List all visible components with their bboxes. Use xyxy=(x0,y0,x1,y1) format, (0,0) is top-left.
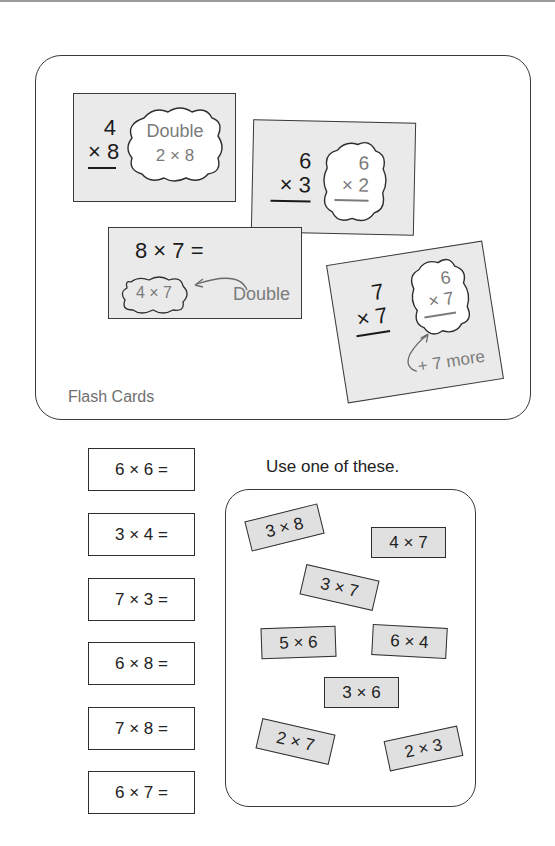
exercise-3: 7 × 3 = xyxy=(88,578,195,621)
hint-bottom: × 2 xyxy=(335,174,369,197)
hint-bottom: × 7 xyxy=(420,288,455,314)
top-factor: 4 xyxy=(88,116,116,140)
underline xyxy=(270,200,310,202)
underline xyxy=(88,167,116,169)
choice-chip: 5 × 6 xyxy=(260,626,336,660)
flash-card-6x3: 6 × 3 6 × 2 xyxy=(251,119,416,235)
flash-cards-label: Flash Cards xyxy=(68,388,154,406)
hint-expr: 2 × 8 xyxy=(124,146,226,166)
exercise-5: 7 × 8 = xyxy=(88,707,195,750)
flash-card-4x8: 4 × 8 Double 2 × 8 xyxy=(73,93,236,202)
bottom-factor: × 8 xyxy=(88,140,116,164)
bottom-factor: × 3 xyxy=(271,173,311,198)
hint-word: Double xyxy=(124,121,226,142)
exercise-2: 3 × 4 = xyxy=(88,513,195,556)
vertical-problem: 4 × 8 xyxy=(88,116,116,169)
exercise-4: 6 × 8 = xyxy=(88,642,195,685)
choice-chip: 4 × 7 xyxy=(371,527,446,558)
hint-top: 6 xyxy=(335,152,369,175)
exercise-6: 6 × 7 = xyxy=(88,771,195,814)
flash-card-7x7: 7 × 7 6 × 7 + 7 more xyxy=(326,241,504,404)
cloud-shape-icon xyxy=(124,104,226,184)
hint-cloud: 6 × 7 xyxy=(403,252,477,341)
hint-note: Double xyxy=(233,284,290,305)
flash-card-8x7: 8 × 7 = 4 × 7 Double xyxy=(108,227,302,319)
bottom-factor: × 7 xyxy=(352,303,389,332)
vertical-problem: 6 × 3 xyxy=(270,149,311,202)
top-rule xyxy=(0,0,555,2)
hint-vertical: 6 × 2 xyxy=(335,152,370,201)
hint-cloud: 6 × 2 xyxy=(320,138,390,225)
exercise-1: 6 × 6 = xyxy=(88,448,195,491)
vertical-problem: 7 × 7 xyxy=(348,280,390,337)
hint-cloud: 4 × 7 xyxy=(119,274,189,314)
hint-expr: 4 × 7 xyxy=(119,284,189,302)
choice-chip: 6 × 4 xyxy=(371,624,448,659)
top-factor: 6 xyxy=(271,149,311,174)
choice-chip: 3 × 6 xyxy=(324,677,399,708)
hint-cloud: Double 2 × 8 xyxy=(124,104,226,184)
equation: 8 × 7 = xyxy=(135,238,204,264)
instruction-text: Use one of these. xyxy=(266,457,399,477)
